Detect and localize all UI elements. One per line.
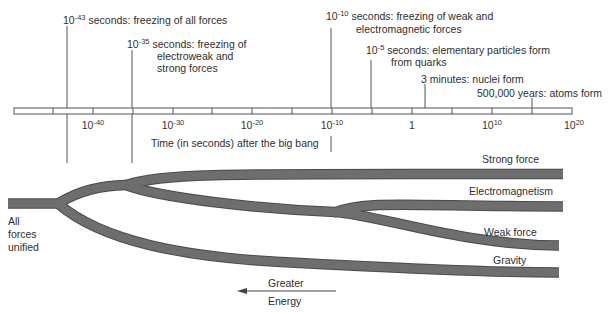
event-text: seconds: elementary particles form bbox=[387, 44, 550, 56]
force-label-gravity: Gravity bbox=[493, 254, 526, 266]
event-text: seconds: freezing of all forces bbox=[88, 14, 227, 26]
event-prefix: 10 bbox=[127, 38, 139, 50]
force-label-weak: Weak force bbox=[484, 226, 537, 238]
event-exponent: -5 bbox=[378, 43, 385, 52]
unified-label-line3: unified bbox=[8, 241, 39, 253]
event-label-nuclei: 3 minutes: nuclei form bbox=[421, 73, 524, 85]
event-label-electroweak-line2: electroweak and bbox=[157, 50, 233, 62]
axis-tick-1e-30: 10-30 bbox=[162, 119, 185, 131]
axis-tick-1: 1 bbox=[409, 119, 415, 131]
event-prefix: 10 bbox=[63, 14, 75, 26]
event-label-all-forces: 10-43 seconds: freezing of all forces bbox=[63, 14, 227, 28]
axis-tick-1e-10: 10-10 bbox=[321, 119, 344, 131]
event-label-weak-em: 10-10 seconds: freezing of weak and bbox=[326, 10, 493, 24]
axis-tick-1e10: 1010 bbox=[482, 119, 502, 131]
unified-label-line1: All bbox=[8, 215, 20, 227]
event-label-electroweak-line3: strong forces bbox=[157, 62, 218, 74]
event-text: seconds: freezing of bbox=[152, 38, 246, 50]
axis-tick-1e-40: 10-40 bbox=[82, 119, 105, 131]
event-label-particles-line2: from quarks bbox=[391, 56, 446, 68]
energy-arrow-label-bottom: Energy bbox=[268, 295, 301, 307]
event-prefix: 10 bbox=[366, 44, 378, 56]
force-label-strong: Strong force bbox=[482, 153, 539, 165]
event-exponent: -10 bbox=[338, 9, 349, 18]
axis-tick-1e20: 1020 bbox=[564, 119, 584, 131]
event-exponent: -43 bbox=[75, 13, 86, 22]
event-label-weak-em-line2: electromagnetic forces bbox=[356, 23, 462, 35]
timeline-bar bbox=[14, 108, 572, 114]
axis-title: Time (in seconds) after the big bang bbox=[151, 137, 319, 149]
unified-label-line2: forces bbox=[8, 228, 37, 240]
force-label-em: Electromagnetism bbox=[469, 185, 553, 197]
energy-arrow-label-top: Greater bbox=[268, 277, 304, 289]
event-text: seconds: freezing of weak and bbox=[351, 10, 493, 22]
event-prefix: 10 bbox=[326, 10, 338, 22]
axis-tick-1e-20: 10-20 bbox=[241, 119, 264, 131]
event-label-atoms: 500,000 years: atoms form bbox=[477, 87, 602, 99]
event-exponent: -35 bbox=[139, 37, 150, 46]
